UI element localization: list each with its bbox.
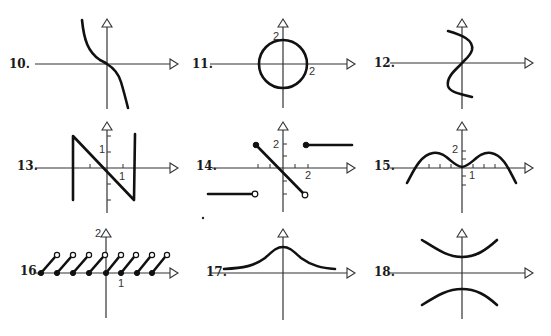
y-axis-arrow-icon [278,229,288,237]
y-axis-arrow-icon [102,19,112,27]
graph-11 [210,19,355,108]
graph-12 [390,19,533,109]
graphs-canvas [0,0,551,336]
print-speck [202,217,204,219]
curve-13 [73,134,135,200]
filled-dot [253,142,259,148]
curve-18-lower-branch [422,289,497,305]
graph-14 [208,122,355,212]
graph-16 [35,229,178,318]
y-axis-arrow-icon [457,229,467,237]
graph-15 [390,122,533,213]
y-axis-arrow-icon [102,122,112,130]
x-axis-arrow-icon [525,163,533,173]
curve-17 [224,247,335,269]
x-axis-arrow-icon [347,163,355,173]
x-axis-arrow-icon [525,268,533,278]
x-axis-arrow-icon [170,59,178,69]
y-axis-arrow-icon [457,19,467,27]
graph-10 [35,19,178,109]
open-dot [252,191,258,197]
segment-14-middle [256,145,303,193]
y-axis-arrow-icon [101,229,111,237]
exercise-graph-grid: 10. 11. 12. 13. 14. 15. 16. 17. 18. 2 2 … [0,0,551,336]
graph-18 [390,229,533,319]
x-axis-arrow-icon [525,58,533,68]
sawtooth-segments [41,257,165,273]
x-axis-arrow-icon [347,59,355,69]
open-dots [54,252,169,257]
open-dot [302,192,308,198]
x-axis-arrow-icon [170,268,178,278]
x-axis-arrow-icon [170,163,178,173]
graph-17 [210,229,355,320]
x-axis-arrow-icon [347,268,355,278]
y-axis-arrow-icon [278,19,288,27]
y-axis-arrow-icon [457,122,467,130]
graph-13 [35,122,178,213]
y-axis-arrow-icon [278,122,288,130]
curve-12 [448,31,472,97]
filled-dot [303,142,309,148]
curve-18-upper-branch [422,240,497,257]
